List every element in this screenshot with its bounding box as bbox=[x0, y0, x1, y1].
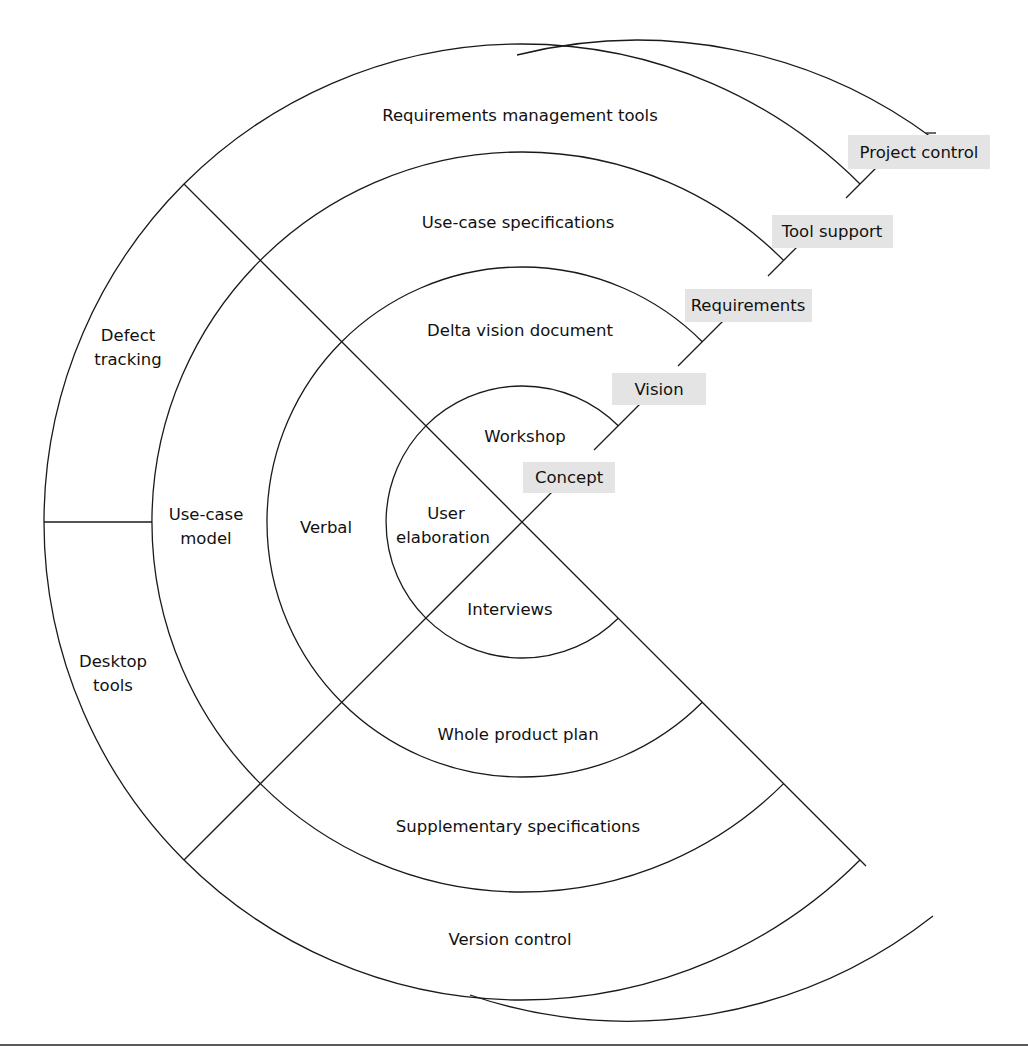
phase-tag-vision: Vision bbox=[612, 373, 706, 405]
label-verbal: Verbal bbox=[300, 518, 352, 537]
label-use-case-specifications: Use-case specifications bbox=[422, 213, 615, 232]
label-requirements-management-tools: Requirements management tools bbox=[382, 106, 658, 125]
label-workshop: Workshop bbox=[484, 427, 565, 446]
radial-segment-concept-to-vision bbox=[594, 398, 646, 450]
radial-segment-center-to-concept bbox=[522, 491, 553, 522]
label-use-case-model-line1: Use-case bbox=[169, 505, 244, 524]
phase-tag-project-control: Project control bbox=[848, 135, 990, 169]
label-desktop-tools-line1: Desktop bbox=[79, 652, 147, 671]
label-desktop-tools-line2: tools bbox=[93, 676, 133, 695]
label-defect-tracking-line1: Defect bbox=[101, 326, 156, 345]
ring-requirements-arc bbox=[152, 152, 784, 892]
label-use-case-model-line2: model bbox=[180, 529, 231, 548]
svg-text:Concept: Concept bbox=[535, 468, 604, 487]
phase-tag-requirements: Requirements bbox=[685, 289, 812, 322]
label-interviews: Interviews bbox=[467, 600, 552, 619]
label-supplementary-specifications: Supplementary specifications bbox=[396, 817, 640, 836]
concentric-requirements-diagram: Workshop User elaboration Interviews Del… bbox=[0, 0, 1028, 1057]
phase-tag-tool-support: Tool support bbox=[772, 215, 893, 248]
svg-text:Vision: Vision bbox=[634, 380, 683, 399]
divider-diagonal-upper-left-to-lower-right bbox=[184, 184, 866, 866]
phase-tag-concept: Concept bbox=[523, 462, 615, 493]
label-version-control: Version control bbox=[448, 930, 571, 949]
label-delta-vision-document: Delta vision document bbox=[427, 321, 613, 340]
label-user-elaboration-line2: elaboration bbox=[396, 528, 490, 547]
svg-text:Requirements: Requirements bbox=[691, 296, 806, 315]
svg-text:Tool support: Tool support bbox=[781, 222, 883, 241]
label-whole-product-plan: Whole product plan bbox=[437, 725, 598, 744]
label-user-elaboration-line1: User bbox=[427, 504, 465, 523]
divider-diagonal-lower-left bbox=[184, 522, 522, 860]
label-defect-tracking-line2: tracking bbox=[94, 350, 162, 369]
svg-text:Project control: Project control bbox=[860, 143, 979, 162]
